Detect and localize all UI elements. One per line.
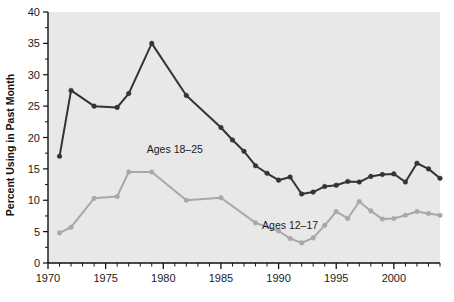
data-point bbox=[57, 154, 62, 159]
data-point bbox=[69, 225, 74, 230]
y-axis-tick-label: 20 bbox=[28, 132, 40, 144]
data-point bbox=[380, 172, 385, 177]
data-point bbox=[380, 217, 385, 222]
data-point bbox=[345, 179, 350, 184]
data-point bbox=[299, 192, 304, 197]
data-point bbox=[288, 175, 293, 180]
data-point bbox=[369, 174, 374, 179]
y-axis-tick-label: 25 bbox=[28, 100, 40, 112]
data-point bbox=[438, 176, 443, 181]
series-label-1: Ages 18–25 bbox=[147, 143, 203, 155]
line-chart: 0510152025303540 19701975198019851990199… bbox=[0, 0, 454, 302]
data-point bbox=[403, 213, 408, 218]
data-point bbox=[438, 213, 443, 218]
data-point bbox=[149, 41, 154, 46]
data-point bbox=[357, 180, 362, 185]
data-point bbox=[392, 216, 397, 221]
data-point bbox=[219, 195, 224, 200]
data-point bbox=[126, 170, 131, 175]
data-point bbox=[311, 190, 316, 195]
data-point bbox=[149, 170, 154, 175]
data-point bbox=[299, 241, 304, 246]
data-point bbox=[184, 198, 189, 203]
y-axis-tick-label: 35 bbox=[28, 37, 40, 49]
data-point bbox=[369, 209, 374, 214]
data-point bbox=[357, 199, 362, 204]
y-axis-tick-label: 30 bbox=[28, 69, 40, 81]
data-point bbox=[392, 172, 397, 177]
x-axis-tick-label: 2000 bbox=[382, 272, 406, 284]
x-axis-tick-label: 1990 bbox=[266, 272, 290, 284]
plot-area-background bbox=[48, 12, 440, 263]
data-point bbox=[322, 223, 327, 228]
data-point bbox=[115, 105, 120, 110]
y-axis-title: Percent Using in Past Month bbox=[4, 74, 16, 216]
y-axis-tick-label: 40 bbox=[28, 6, 40, 18]
x-axis-tick-label: 1995 bbox=[324, 272, 348, 284]
data-point bbox=[92, 196, 97, 201]
data-point bbox=[219, 125, 224, 130]
x-axis-tick-label: 1985 bbox=[209, 272, 233, 284]
data-point bbox=[415, 161, 420, 166]
x-axis-tick-label: 1980 bbox=[151, 272, 175, 284]
data-point bbox=[57, 231, 62, 236]
data-point bbox=[115, 194, 120, 199]
y-axis-tick-label: 15 bbox=[28, 163, 40, 175]
data-point bbox=[253, 221, 258, 226]
data-point bbox=[230, 138, 235, 143]
data-point bbox=[322, 184, 327, 189]
y-axis-tick-label: 5 bbox=[34, 226, 40, 238]
data-point bbox=[265, 171, 270, 176]
data-point bbox=[311, 236, 316, 241]
data-point bbox=[276, 178, 281, 183]
data-point bbox=[345, 216, 350, 221]
chart-figure: 0510152025303540 19701975198019851990199… bbox=[0, 0, 454, 302]
data-point bbox=[403, 180, 408, 185]
data-point bbox=[69, 88, 74, 93]
data-point bbox=[126, 91, 131, 96]
data-point bbox=[426, 167, 431, 172]
series-label-2: Ages 12–17 bbox=[262, 219, 318, 231]
y-axis-tick-label: 0 bbox=[34, 257, 40, 269]
data-point bbox=[242, 149, 247, 154]
x-axis-tick-label: 1975 bbox=[93, 272, 117, 284]
data-point bbox=[184, 93, 189, 98]
data-point bbox=[288, 236, 293, 241]
data-point bbox=[92, 104, 97, 109]
data-point bbox=[334, 183, 339, 188]
data-point bbox=[426, 211, 431, 216]
data-point bbox=[253, 163, 258, 168]
data-point bbox=[415, 209, 420, 214]
y-axis-tick-label: 10 bbox=[28, 194, 40, 206]
x-axis-tick-label: 1970 bbox=[36, 272, 60, 284]
data-point bbox=[334, 209, 339, 214]
